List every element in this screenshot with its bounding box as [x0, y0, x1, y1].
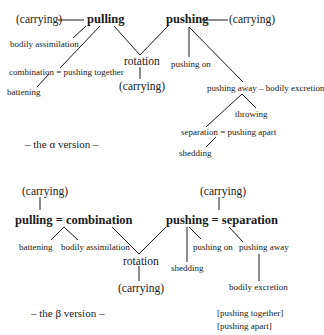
alpha-node-pushing: pushing — [166, 13, 208, 26]
edge-pulling-bodily-assimilation — [73, 26, 86, 38]
edge-pushing-pushing-away — [189, 27, 243, 82]
beta-node-pushing-separation: pushing = separation — [166, 214, 278, 227]
alpha-node-carrying-right: (carrying) — [229, 14, 275, 26]
edge-pushing-pushing-on-beta — [189, 227, 201, 239]
beta-node-carrying-top-right: (carrying) — [200, 186, 246, 198]
alpha-node-shedding: shedding — [179, 149, 212, 158]
alpha-node-separation: separation = pushing apart — [181, 128, 276, 137]
beta-legend-pushing-together: [pushing together] — [217, 309, 283, 318]
beta-node-carrying-bottom: (carrying) — [118, 283, 164, 295]
alpha-node-pushing-away: pushing away – bodily excretion — [207, 84, 324, 93]
edge-pulling-battening — [51, 227, 64, 240]
beta-node-carrying-top-left: (carrying) — [22, 186, 68, 198]
alpha-node-carrying-left: (carrying) — [16, 14, 62, 26]
edge-pulling-bodily-assimilation-beta — [64, 227, 78, 240]
alpha-node-rotation: rotation — [124, 56, 160, 68]
edge-pushing-rotation-beta — [139, 227, 166, 254]
edge-pulling-rotation — [114, 26, 140, 55]
beta-node-bodily-excretion: bodily excretion — [229, 283, 288, 292]
beta-node-rotation: rotation — [123, 256, 159, 268]
beta-node-battening: battening — [19, 243, 53, 252]
beta-node-pushing-on: pushing on — [193, 243, 233, 252]
alpha-node-throwing: throwing — [235, 110, 268, 119]
alpha-node-pushing-on: pushing on — [171, 60, 211, 69]
edge-pushing-rotation — [140, 26, 168, 55]
edge-separation-pushing-away — [229, 227, 243, 242]
alpha-node-pulling: pulling — [87, 13, 125, 26]
beta-legend-pushing-apart: [pushing apart] — [217, 322, 272, 331]
beta-node-shedding: shedding — [171, 264, 204, 273]
alpha-node-bodily-assimilation: bodily assimilation — [10, 40, 79, 49]
alpha-node-combination: combination = pushing together — [9, 68, 124, 77]
beta-caption: – the β version – — [31, 308, 104, 319]
edge-separation-shedding — [206, 137, 216, 147]
alpha-node-battening: battening — [7, 88, 41, 97]
beta-node-bodily-assimilation: bodily assimilation — [61, 243, 130, 252]
alpha-caption: – the α version – — [25, 139, 99, 150]
edge-pushing-away-throwing — [242, 94, 256, 108]
alpha-node-carrying-bottom: (carrying) — [119, 81, 165, 93]
beta-node-pulling-combination: pulling = combination — [15, 214, 133, 227]
beta-node-pushing-away: pushing away — [239, 243, 289, 252]
